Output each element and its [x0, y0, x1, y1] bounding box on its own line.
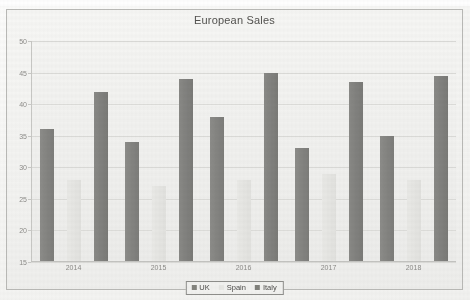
- bar-uk-2016: [210, 117, 224, 261]
- y-axis-tick-label: 50: [19, 38, 27, 45]
- legend-swatch-icon-uk: [191, 285, 196, 290]
- bar-italy-2018: [434, 76, 448, 261]
- bar-spain-2016: [237, 180, 251, 261]
- y-axis-tick-label: 40: [19, 101, 27, 108]
- chart-screenshot: European Sales 5045403530252015 20142015…: [0, 0, 470, 300]
- bar-italy-2016: [264, 73, 278, 261]
- x-axis-label-2017: 2017: [321, 264, 337, 271]
- legend-item-uk[interactable]: UK: [191, 284, 209, 292]
- y-axis-tick-label: 30: [19, 164, 27, 171]
- page-top-edge: [0, 0, 470, 6]
- bar-uk-2018: [380, 136, 394, 261]
- x-axis-label-2018: 2018: [406, 264, 422, 271]
- bar-spain-2015: [152, 186, 166, 261]
- x-axis-labels: 20142015201620172018: [31, 264, 456, 276]
- bar-uk-2015: [125, 142, 139, 261]
- bar-uk-2014: [40, 129, 54, 261]
- y-axis-tick-label: 45: [19, 69, 27, 76]
- legend-item-italy[interactable]: Italy: [255, 284, 277, 292]
- legend-label: Spain: [227, 284, 246, 292]
- legend-swatch-icon-italy: [255, 285, 260, 290]
- chart-legend: UKSpainItaly: [185, 281, 283, 295]
- bar-italy-2014: [94, 92, 108, 261]
- chart-frame: European Sales 5045403530252015 20142015…: [6, 9, 463, 290]
- bar-spain-2018: [407, 180, 421, 261]
- x-axis-label-2014: 2014: [66, 264, 82, 271]
- bar-spain-2014: [67, 180, 81, 261]
- bars-layer: [31, 41, 456, 262]
- bar-italy-2015: [179, 79, 193, 261]
- bar-spain-2017: [322, 174, 336, 261]
- y-axis-tick-label: 25: [19, 195, 27, 202]
- y-axis-tick-mark: [28, 262, 31, 263]
- chart-title: European Sales: [7, 14, 462, 26]
- y-axis-tick-label: 35: [19, 132, 27, 139]
- gridline: [31, 262, 456, 263]
- legend-item-spain[interactable]: Spain: [219, 284, 246, 292]
- plot-area: 5045403530252015: [31, 41, 456, 262]
- x-axis-label-2016: 2016: [236, 264, 252, 271]
- bar-uk-2017: [295, 148, 309, 261]
- legend-swatch-icon-spain: [219, 285, 224, 290]
- bar-italy-2017: [349, 82, 363, 261]
- y-axis-tick-label: 20: [19, 227, 27, 234]
- y-axis-tick-label: 15: [19, 259, 27, 266]
- legend-label: UK: [199, 284, 209, 292]
- x-axis-label-2015: 2015: [151, 264, 167, 271]
- legend-label: Italy: [263, 284, 277, 292]
